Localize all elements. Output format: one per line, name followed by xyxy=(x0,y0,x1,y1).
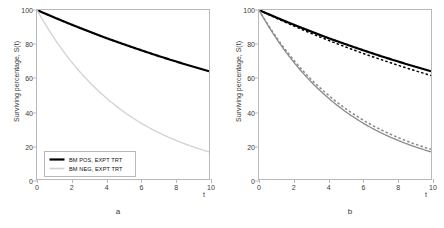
y-axis-tick-mark xyxy=(33,112,37,113)
y-axis-tick-mark xyxy=(33,146,37,147)
legend-item-label: BM POS, EXPT TRT xyxy=(69,157,122,163)
y-axis-tick-label: 60 xyxy=(25,75,33,82)
curve-bm-pos-expt-trt xyxy=(37,10,209,71)
x-axis-tick-label: 4 xyxy=(105,184,109,191)
panel-b: Surviving percentage, S(t) 0204060801000… xyxy=(222,0,444,228)
x-axis-tick-mark xyxy=(141,179,142,183)
curve-bm-pos-stnd-trt xyxy=(259,10,431,75)
panel-b-letter: b xyxy=(330,207,370,216)
x-axis-tick-mark xyxy=(37,179,38,183)
legend-item: BM NEG, EXPT TRT xyxy=(49,164,131,173)
y-axis-tick-label: 60 xyxy=(247,75,255,82)
survival-curves-figure: Surviving percentage, S(t) 0204060801000… xyxy=(0,0,444,228)
x-axis-tick-mark xyxy=(259,179,260,183)
curve-bm-neg-expt-trt xyxy=(259,10,431,152)
x-axis-tick-mark xyxy=(176,179,177,183)
y-axis-tick-label: 80 xyxy=(247,41,255,48)
panel-b-y-axis-label: Surviving percentage, S(t) xyxy=(235,12,242,152)
panel-b-plot-area: 0204060801000246810 xyxy=(258,9,432,180)
panel-a-y-axis-label: Surviving percentage, S(t) xyxy=(13,12,20,152)
y-axis-tick-mark xyxy=(255,44,259,45)
curve-bm-pos-expt-trt xyxy=(259,10,431,71)
x-axis-tick-mark xyxy=(363,179,364,183)
x-axis-tick-label: 0 xyxy=(35,184,39,191)
y-axis-tick-mark xyxy=(33,10,37,11)
panel-b-x-axis-label: t xyxy=(425,191,427,198)
y-axis-tick-label: 80 xyxy=(25,41,33,48)
panel-b-curves xyxy=(259,10,431,179)
y-axis-tick-label: 40 xyxy=(247,109,255,116)
legend-key-line xyxy=(49,164,65,173)
x-axis-tick-mark xyxy=(398,179,399,183)
panel-a-letter: a xyxy=(98,207,138,216)
y-axis-tick-label: 20 xyxy=(25,143,33,150)
y-axis-tick-label: 100 xyxy=(21,7,33,14)
legend-item-label: BM NEG, EXPT TRT xyxy=(69,166,123,172)
panel-a-x-axis-label: t xyxy=(203,191,205,198)
y-axis-tick-mark xyxy=(255,112,259,113)
x-axis-tick-label: 8 xyxy=(396,184,400,191)
x-axis-tick-mark xyxy=(294,179,295,183)
x-axis-tick-label: 2 xyxy=(70,184,74,191)
y-axis-tick-mark xyxy=(255,146,259,147)
y-axis-tick-mark xyxy=(255,10,259,11)
y-axis-tick-label: 40 xyxy=(25,109,33,116)
x-axis-tick-mark xyxy=(329,179,330,183)
curve-bm-neg-expt-trt xyxy=(37,10,209,152)
x-axis-tick-label: 0 xyxy=(257,184,261,191)
panel-a-legend: BM POS, EXPT TRT BM NEG, EXPT TRT xyxy=(44,151,136,177)
curve-bm-neg-stnd-trt xyxy=(259,10,431,149)
x-axis-tick-mark xyxy=(211,179,212,183)
y-axis-tick-mark xyxy=(255,78,259,79)
y-axis-tick-mark xyxy=(33,78,37,79)
panel-a: Surviving percentage, S(t) 0204060801000… xyxy=(0,0,222,228)
x-axis-tick-label: 6 xyxy=(139,184,143,191)
x-axis-tick-mark xyxy=(433,179,434,183)
legend-item: BM POS, EXPT TRT xyxy=(49,155,131,164)
x-axis-tick-mark xyxy=(107,179,108,183)
y-axis-tick-label: 100 xyxy=(243,7,255,14)
y-axis-tick-mark xyxy=(33,44,37,45)
x-axis-tick-label: 10 xyxy=(429,184,437,191)
legend-key-line xyxy=(49,155,65,164)
x-axis-tick-mark xyxy=(72,179,73,183)
x-axis-tick-label: 4 xyxy=(327,184,331,191)
x-axis-tick-label: 8 xyxy=(174,184,178,191)
x-axis-tick-label: 2 xyxy=(292,184,296,191)
x-axis-tick-label: 10 xyxy=(207,184,215,191)
x-axis-tick-label: 6 xyxy=(361,184,365,191)
y-axis-tick-label: 20 xyxy=(247,143,255,150)
